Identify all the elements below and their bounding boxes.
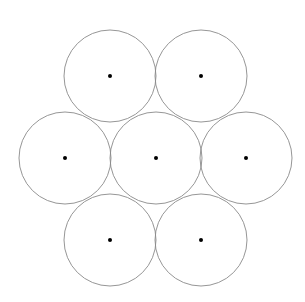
center-dot <box>199 74 203 78</box>
circle-top-left <box>64 30 156 122</box>
circle-packing-diagram <box>0 0 305 302</box>
circle-middle-left <box>19 112 111 204</box>
circle-bottom-left <box>64 194 156 286</box>
center-dot <box>108 74 112 78</box>
center-dot <box>199 238 203 242</box>
center-dot <box>154 156 158 160</box>
center-dot <box>63 156 67 160</box>
circle-middle-right <box>200 112 292 204</box>
circle-bottom-right <box>155 194 247 286</box>
center-dot <box>108 238 112 242</box>
circle-top-right <box>155 30 247 122</box>
circle-center <box>110 112 202 204</box>
center-dot <box>244 156 248 160</box>
